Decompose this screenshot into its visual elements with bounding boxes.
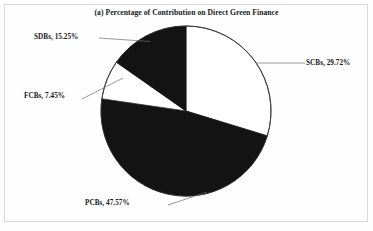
pie-label-scbs: SCBs, 29.72% [306,59,350,68]
pie-label-pcbs: PCBs, 47.57% [85,199,130,208]
pie-chart-plot-area: SDBs, 15.25% SCBs, 29.72% FCBs, 7.45% PC… [0,0,373,231]
pie-label-sdbs: SDBs, 15.25% [34,33,78,42]
pie-label-fcbs: FCBs, 7.45% [24,92,65,101]
chart-screenshot: (a) Percentage of Contribution on Direct… [0,0,373,231]
